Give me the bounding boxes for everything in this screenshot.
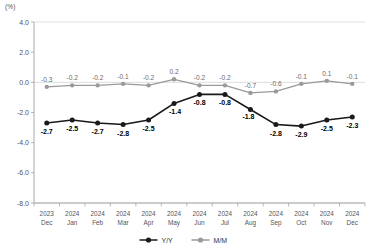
y-axis-tick-label: 4.0 xyxy=(19,19,29,26)
data-point-marker xyxy=(70,118,75,123)
data-label-mm: -0.1 xyxy=(117,73,129,80)
y-axis-tick-label: -2.0 xyxy=(17,109,29,116)
axes xyxy=(31,22,365,207)
data-label-yy: -1.4 xyxy=(169,108,181,115)
x-axis-tick-labels: 2023Dec2024Jan2024Feb2024Mar2024Apr2024M… xyxy=(40,210,360,227)
legend-marker-dot xyxy=(198,237,203,242)
x-axis-tick-label-month: Feb xyxy=(92,219,103,226)
chart-container: (%) 4.02.00.0-2.0-4.0-6.0-8.0 2023Dec202… xyxy=(0,0,373,251)
data-label-mm: -0.2 xyxy=(219,74,231,81)
y-axis-tick-label: -8.0 xyxy=(17,200,29,207)
data-label-yy: -0.8 xyxy=(219,99,231,106)
data-point-marker xyxy=(146,83,150,87)
data-label-yy: -2.7 xyxy=(92,128,104,135)
data-point-marker xyxy=(197,92,202,97)
data-point-marker xyxy=(45,85,49,89)
data-label-mm: -0.1 xyxy=(347,73,359,80)
data-label-yy: -2.7 xyxy=(41,128,53,135)
data-point-marker xyxy=(121,122,126,127)
data-label-yy: -2.3 xyxy=(346,122,358,129)
data-label-mm: 0.1 xyxy=(322,70,331,77)
data-point-marker xyxy=(223,83,227,87)
data-point-marker xyxy=(70,83,74,87)
data-point-marker xyxy=(146,118,151,123)
data-point-marker xyxy=(197,83,201,87)
legend-label: Y/Y xyxy=(162,237,174,244)
data-label-yy: -2.9 xyxy=(295,131,307,138)
grid-lines xyxy=(34,22,365,203)
x-axis-tick-label-month: Jul xyxy=(221,219,229,226)
x-axis-tick-label-month: May xyxy=(168,219,181,227)
data-point-marker xyxy=(121,82,125,86)
data-label-yy: -2.8 xyxy=(117,130,129,137)
x-axis-tick-label-year: 2024 xyxy=(141,210,156,217)
x-axis-tick-label-month: Sep xyxy=(270,219,282,227)
data-label-mm: -0.7 xyxy=(245,82,257,89)
x-axis-tick-label-year: 2024 xyxy=(243,210,258,217)
y-axis-tick-label: 0.0 xyxy=(19,79,29,86)
data-label-mm: -0.3 xyxy=(41,76,53,83)
data-label-yy: -1.8 xyxy=(242,113,254,120)
x-axis-tick-label-month: Nov xyxy=(321,219,333,226)
data-point-marker xyxy=(273,122,278,127)
data-point-marker xyxy=(172,101,177,106)
data-point-marker xyxy=(350,82,354,86)
x-axis-tick-label-year: 2024 xyxy=(192,210,207,217)
data-label-yy: -2.5 xyxy=(143,125,155,132)
x-axis-tick-label-year: 2023 xyxy=(40,210,55,217)
data-label-mm: -0.1 xyxy=(296,73,308,80)
x-axis-tick-label-year: 2024 xyxy=(167,210,182,217)
x-axis-tick-label-year: 2024 xyxy=(65,210,80,217)
chart-legend: Y/YM/M xyxy=(140,237,228,244)
x-axis-tick-label-year: 2024 xyxy=(269,210,284,217)
x-axis-tick-label-month: Dec xyxy=(347,219,359,226)
data-point-marker xyxy=(248,91,252,95)
data-label-yy: -0.8 xyxy=(193,99,205,106)
x-axis-tick-label-year: 2024 xyxy=(294,210,309,217)
data-point-marker xyxy=(350,115,355,120)
data-point-marker xyxy=(172,77,176,81)
x-axis-tick-label-year: 2024 xyxy=(345,210,360,217)
y-axis-tick-label: -4.0 xyxy=(17,139,29,146)
data-point-marker xyxy=(274,89,278,93)
x-axis-tick-label-month: Aug xyxy=(245,219,257,227)
x-axis-tick-label-year: 2024 xyxy=(320,210,335,217)
data-point-labels: -2.7-2.5-2.7-2.8-2.5-1.4-0.8-0.8-1.8-2.8… xyxy=(41,68,359,138)
data-label-mm: 0.2 xyxy=(169,68,178,75)
data-point-marker xyxy=(325,79,329,83)
x-axis-tick-label-month: Dec xyxy=(41,219,53,226)
data-label-yy: -2.5 xyxy=(66,125,78,132)
data-point-marker xyxy=(324,118,329,123)
x-axis-tick-label-year: 2024 xyxy=(218,210,233,217)
data-label-yy: -2.8 xyxy=(270,130,282,137)
x-axis-tick-label-month: Jan xyxy=(67,219,78,226)
data-point-marker xyxy=(95,121,100,126)
x-axis-tick-label-year: 2024 xyxy=(116,210,131,217)
data-label-mm: -0.2 xyxy=(67,74,79,81)
x-axis-tick-label-month: Apr xyxy=(144,219,155,227)
data-label-mm: -0.2 xyxy=(194,74,206,81)
x-axis-tick-label-month: Jun xyxy=(194,219,205,226)
legend-marker-dot xyxy=(146,237,151,242)
data-point-marker xyxy=(299,82,303,86)
data-point-marker xyxy=(44,121,49,126)
y-axis-tick-labels: 4.02.00.0-2.0-4.0-6.0-8.0 xyxy=(17,19,29,207)
data-point-marker xyxy=(95,83,99,87)
line-chart: 4.02.00.0-2.0-4.0-6.0-8.0 2023Dec2024Jan… xyxy=(0,0,373,251)
data-label-mm: -0.2 xyxy=(143,74,155,81)
y-axis-unit-label: (%) xyxy=(5,3,16,10)
x-axis-tick-label-year: 2024 xyxy=(91,210,106,217)
x-axis-tick-label-month: Oct xyxy=(296,219,306,226)
y-axis-tick-label: 2.0 xyxy=(19,49,29,56)
data-point-marker xyxy=(222,92,227,97)
legend-label: M/M xyxy=(214,237,228,244)
x-axis-tick-label-month: Mar xyxy=(118,219,130,226)
y-axis-tick-label: -6.0 xyxy=(17,169,29,176)
data-label-mm: -0.2 xyxy=(92,74,104,81)
data-point-marker xyxy=(299,124,304,129)
data-label-mm: -0.6 xyxy=(270,80,282,87)
data-label-yy: -2.5 xyxy=(321,125,333,132)
data-point-marker xyxy=(248,107,253,112)
